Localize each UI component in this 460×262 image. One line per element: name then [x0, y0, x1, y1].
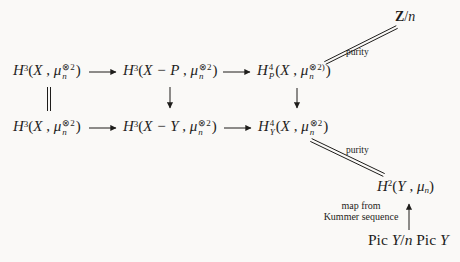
node-pic-y-mod-n: Pic Y/n Pic Y [368, 232, 449, 248]
node-h2-y-mu-n: H2(Y , μn) [377, 179, 434, 196]
node-h3-x-row2: H3(X , μ⊗2n) [13, 119, 81, 138]
purity-label-top: purity [346, 48, 369, 58]
node-h3-x-minus-y: H3(X − Y , μ⊗2n) [123, 119, 217, 138]
node-h3-x-minus-p: H3(X − P , μ⊗2n) [123, 63, 218, 82]
equals-sign [48, 87, 51, 111]
node-h4-y-x: H4Y(X , μ⊗2n) [258, 119, 328, 138]
purity-label-bottom: purity [346, 146, 369, 156]
purity-isomorphism-top [324, 26, 397, 65]
purity-bottom-line-2 [312, 139, 385, 174]
node-z-mod-n: Z/n [395, 10, 415, 24]
kummer-label-line1: map from [318, 201, 404, 212]
commutative-diagram-canvas: H3(X , μ⊗2n) H3(X − P , μ⊗2n) H4P(X , μ⊗… [0, 0, 460, 262]
kummer-label-line2: Kummer sequence [318, 212, 404, 223]
kummer-sequence-label: map from Kummer sequence [318, 201, 404, 222]
vertical-down-arrows [170, 87, 297, 108]
node-h4-p-x: H4P(X , μ⊗2)n) [257, 63, 331, 82]
node-h3-x-row1: H3(X , μ⊗2n) [13, 63, 81, 82]
